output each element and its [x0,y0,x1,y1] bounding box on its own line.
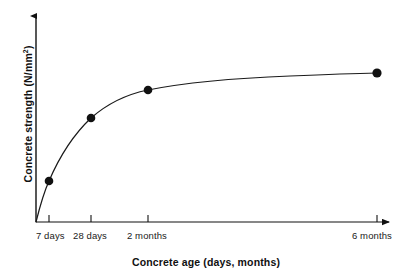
concrete-strength-chart: 7 days 28 days 2 months 6 months Concret… [0,0,412,280]
strength-curve [36,73,377,222]
data-point-7-days [45,177,54,186]
y-axis-title-tail: ) [22,45,34,49]
data-point-28-days [87,114,96,123]
y-axis-title: Concrete strength (N/mm2) [22,24,34,204]
x-tick-label-2-months: 2 months [127,230,167,241]
data-point-2-months [144,86,153,95]
x-tick-label-7-days: 7 days [36,230,65,241]
x-tick-label-28-days: 28 days [73,230,107,241]
y-axis-title-base: Concrete strength (N/mm [22,53,34,182]
x-axis-ticks [49,215,377,222]
data-point-markers [45,68,382,185]
data-point-6-months [372,68,381,77]
x-axis-title: Concrete age (days, months) [0,256,412,268]
x-tick-label-6-months: 6 months [352,230,392,241]
y-axis-title-superscript: 2 [22,49,29,53]
